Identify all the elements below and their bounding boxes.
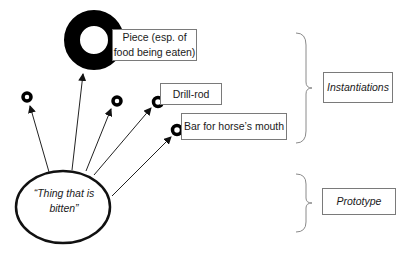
drill-rod-label: Drill-rod xyxy=(173,87,210,102)
prototype-label-line2: bitten” xyxy=(18,201,110,216)
piece-label-line2: food being eaten) xyxy=(114,45,196,60)
instantiations-box: Instantiations xyxy=(323,72,393,103)
instantiations-brace xyxy=(296,33,312,143)
piece-label-line1: Piece (esp. of xyxy=(114,30,196,45)
small-ring-icon xyxy=(23,93,31,101)
prototype-brace xyxy=(296,174,312,232)
bar-label-box: Bar for horse’s mouth xyxy=(181,113,287,140)
prototype-node-label: “Thing that is bitten” xyxy=(18,186,110,216)
small-ring-icon xyxy=(113,97,121,105)
piece-label-box: Piece (esp. of food being eaten) xyxy=(112,29,197,61)
arrow-to-piece-ring xyxy=(72,74,83,170)
prototype-box: Prototype xyxy=(322,188,396,215)
prototype-label: Prototype xyxy=(337,194,382,209)
bar-label: Bar for horse’s mouth xyxy=(184,119,284,134)
arrow-to-ring-2 xyxy=(86,109,111,171)
arrow-to-ring-1 xyxy=(30,106,49,172)
instantiations-label: Instantiations xyxy=(327,80,389,95)
prototype-label-line1: “Thing that is xyxy=(18,186,110,201)
large-ring-icon xyxy=(72,18,116,62)
drill-rod-label-box: Drill-rod xyxy=(160,83,222,105)
arrow-to-bar-ring xyxy=(112,137,171,196)
